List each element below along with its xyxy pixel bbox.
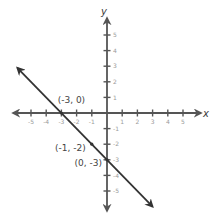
plot-series	[17, 68, 152, 207]
x-tick-label: 5	[181, 118, 185, 125]
y-tick-label: 5	[113, 31, 117, 38]
y-tick-label: 3	[113, 62, 117, 69]
y-tick-label: -5	[113, 187, 119, 194]
x-tick-label: 1	[120, 118, 124, 125]
point-label: (-1, -2)	[55, 143, 86, 153]
y-axis-label: y	[100, 6, 108, 17]
point-label: (-3, 0)	[58, 95, 85, 105]
y-tick-label: -1	[113, 125, 119, 132]
x-tick-label: 3	[151, 118, 155, 125]
point-marker	[60, 111, 63, 114]
x-tick-label: -4	[43, 118, 49, 125]
x-tick-label: -3	[58, 118, 64, 125]
point-annotations: (-3, 0)(-1, -2)(0, -3)	[55, 95, 109, 168]
line-series	[17, 68, 152, 207]
x-tick-label: 2	[135, 118, 139, 125]
y-tick-label: 2	[113, 78, 117, 85]
x-tick-label: -1	[89, 118, 95, 125]
y-tick-label: -2	[113, 140, 119, 147]
axes: -5-4-3-2-112345 54321-1-2-3-4-5 x y	[13, 6, 209, 211]
x-tick-label: -2	[74, 118, 80, 125]
y-tick-label: 4	[113, 47, 117, 54]
point-label: (0, -3)	[75, 158, 102, 168]
point-marker	[90, 143, 93, 146]
x-axis-label: x	[202, 108, 209, 119]
point-marker	[105, 158, 108, 161]
coordinate-plane: -5-4-3-2-112345 54321-1-2-3-4-5 x y (-3,…	[0, 0, 213, 220]
y-tick-label: -4	[113, 172, 119, 179]
x-tick-label: -5	[28, 118, 34, 125]
y-tick-label: 1	[113, 94, 117, 101]
x-tick-label: 4	[166, 118, 170, 125]
y-tick-label: -3	[113, 156, 119, 163]
